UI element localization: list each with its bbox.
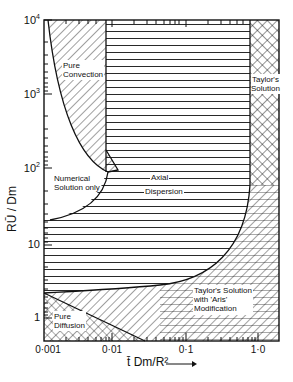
axial-label: Axial — [150, 172, 169, 183]
x-axis-label: t̄ Dm/R² — [127, 356, 168, 368]
x-axis-arrow — [166, 361, 197, 367]
x-tick-label: 1·0 — [251, 345, 265, 355]
x-tick-label: 0·01 — [102, 345, 122, 355]
pure-diffusion-label: Pure Diffusion — [53, 311, 86, 331]
y-tick-label: 10 — [4, 239, 40, 250]
y-tick-label: 103 — [4, 87, 40, 100]
taylor-solution-label: Taylor's Solution — [251, 74, 280, 94]
y-tick-label: 102 — [4, 161, 40, 174]
y-tick-label: 1 — [4, 312, 40, 323]
taylor-solution-region — [250, 20, 279, 185]
y-axis-label: RŪ / Dm — [6, 186, 18, 232]
y-tick-label: 104 — [4, 13, 40, 26]
numerical-solution-label: Numerical Solution only — [53, 173, 101, 193]
taylor-aris-label: Taylor's Solution with 'Aris' Modificati… — [193, 285, 253, 315]
dispersion-label: Dispersion — [144, 186, 184, 197]
x-tick-label: 0·001 — [35, 345, 61, 355]
pure-convection-label: Pure Convection — [62, 60, 104, 80]
x-tick-label: 0·1 — [179, 345, 193, 355]
